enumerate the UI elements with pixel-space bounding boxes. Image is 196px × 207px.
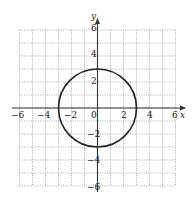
y-tick-label: −2 [87, 130, 100, 139]
chart-canvas [0, 0, 196, 207]
x-tick-label: 4 [147, 111, 153, 120]
x-tick-label: −2 [64, 111, 77, 120]
x-tick-label: −6 [11, 111, 24, 120]
y-tick-label: −6 [87, 183, 100, 192]
x-tick-label: 2 [121, 111, 127, 120]
coordinate-plane-chart: y x −6 −4 −2 0 2 4 6 6 4 2 −2 −4 −6 [0, 0, 196, 207]
y-tick-label: 2 [91, 77, 97, 86]
x-tick-label: −4 [37, 111, 50, 120]
x-tick-label: 6 [172, 111, 178, 120]
x-tick-label: 0 [91, 111, 97, 120]
y-tick-label: 4 [91, 50, 97, 59]
y-tick-label: −4 [87, 156, 100, 165]
x-axis-label: x [180, 111, 185, 120]
y-tick-label: 6 [91, 24, 97, 33]
y-axis-label: y [91, 12, 96, 21]
